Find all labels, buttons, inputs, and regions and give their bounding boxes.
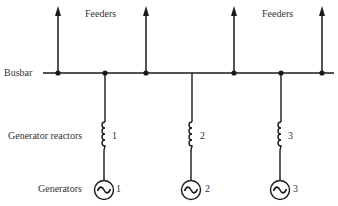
generator-reactors-label: Generator reactors xyxy=(8,130,82,141)
generator-branch-1 xyxy=(95,73,114,200)
generator-branch-3 xyxy=(271,73,290,200)
feeder-2 xyxy=(143,6,149,73)
arrow-up-icon xyxy=(55,6,61,16)
feeder-4 xyxy=(319,6,325,73)
generator-number-3: 3 xyxy=(293,183,298,194)
busbar-label: Busbar xyxy=(4,67,32,78)
generator-branch-2 xyxy=(182,73,201,200)
reactor-number-3: 3 xyxy=(288,130,293,141)
generators-label: Generators xyxy=(38,183,82,194)
reactor-number-2: 2 xyxy=(200,130,205,141)
arrow-up-icon xyxy=(143,6,149,16)
feeders-label-right: Feeders xyxy=(262,8,293,19)
reactor-number-1: 1 xyxy=(112,130,117,141)
arrow-up-icon xyxy=(231,6,237,16)
feeders-label-left: Feeders xyxy=(85,8,116,19)
generator-number-1: 1 xyxy=(116,183,121,194)
inductor-icon xyxy=(278,122,281,150)
feeder-1 xyxy=(55,6,61,73)
inductor-icon xyxy=(102,122,105,150)
feeder-3 xyxy=(231,6,237,73)
diagram-canvas xyxy=(0,0,338,206)
inductor-icon xyxy=(189,122,192,150)
arrow-up-icon xyxy=(319,6,325,16)
generator-number-2: 2 xyxy=(205,183,210,194)
